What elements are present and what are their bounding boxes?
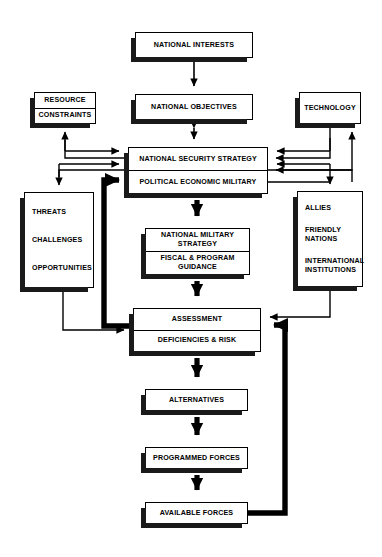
edge-nss-to-allies [268,182,330,184]
edge-nss-to-technology [268,132,352,170]
node-assessment-label-0: ASSESSMENT [134,309,260,330]
list-item: THREATS [32,208,66,217]
node-national-military-strategy-inner: NATIONAL MILITARY STRATEGYFISCAL & PROGR… [146,229,249,274]
node-allies-friendly-nations-international-institutions-inner: ALLIESFRIENDLY NATIONSINTERNATIONAL INST… [298,192,362,286]
list-item: FRIENDLY NATIONS [305,226,362,244]
edge-technology-to-nss [276,124,330,158]
node-assessment-inner: ASSESSMENTDEFICIENCIES & RISK [134,309,260,351]
node-national-military-strategy-label-0: NATIONAL MILITARY STRATEGY [146,229,249,251]
node-assessment-label-1: DEFICIENCIES & RISK [134,330,260,352]
node-national-interests: NATIONAL INTERESTS [135,32,253,58]
node-resource-constraints-label-0: RESOURCE [35,93,95,108]
list-item: ALLIES [305,204,331,213]
node-available-forces: AVAILABLE FORCES [145,502,248,524]
node-national-objectives-inner: NATIONAL OBJECTIVES [136,95,252,119]
node-national-objectives-label-0: NATIONAL OBJECTIVES [136,95,252,119]
node-national-security-strategy-inner: NATIONAL SECURITY STRATEGYPOLITICAL ECON… [129,148,267,193]
edge-assessment-to-nss-feedback [104,180,133,326]
edge-threats-to-nss [94,158,118,170]
edge-threats-to-assessment [63,288,124,330]
node-resource-constraints: RESOURCECONSTRAINTS [34,92,96,124]
node-allies-friendly-nations-international-institutions-items: ALLIESFRIENDLY NATIONSINTERNATIONAL INST… [298,192,362,286]
list-item: CHALLENGES [32,236,82,245]
node-assessment: ASSESSMENTDEFICIENCIES & RISK [133,308,261,352]
node-allies-friendly-nations-international-institutions: ALLIESFRIENDLY NATIONSINTERNATIONAL INST… [297,191,363,287]
node-resource-constraints-inner: RESOURCECONSTRAINTS [35,93,95,123]
node-national-security-strategy-label-0: NATIONAL SECURITY STRATEGY [129,148,267,170]
node-programmed-forces: PROGRAMMED FORCES [145,447,248,469]
edge-allies-to-nss-line [276,170,352,182]
node-national-military-strategy: NATIONAL MILITARY STRATEGYFISCAL & PROGR… [145,228,250,275]
node-programmed-forces-label-0: PROGRAMMED FORCES [146,448,247,468]
list-item: INTERNATIONAL INSTITUTIONS [305,257,364,275]
node-national-security-strategy: NATIONAL SECURITY STRATEGYPOLITICAL ECON… [128,147,268,194]
node-national-interests-inner: NATIONAL INTERESTS [136,33,252,57]
node-technology: TECHNOLOGY [299,92,361,124]
node-resource-constraints-label-1: CONSTRAINTS [35,108,95,124]
node-alternatives: ALTERNATIVES [145,389,248,411]
list-item: OPPORTUNITIES [32,264,92,273]
node-national-interests-label-0: NATIONAL INTERESTS [136,33,252,57]
node-national-military-strategy-label-1: FISCAL & PROGRAM GUIDANCE [146,251,249,274]
node-national-security-strategy-label-1: POLITICAL ECONOMIC MILITARY [129,170,267,193]
node-available-forces-inner: AVAILABLE FORCES [146,503,247,523]
node-threats-challenges-opportunities-items: THREATSCHALLENGESOPPORTUNITIES [25,193,93,287]
node-national-objectives: NATIONAL OBJECTIVES [135,94,253,120]
node-technology-inner: TECHNOLOGY [300,93,360,123]
node-available-forces-label-0: AVAILABLE FORCES [146,503,247,523]
node-technology-label-0: TECHNOLOGY [300,93,360,123]
node-threats-challenges-opportunities-inner: THREATSCHALLENGESOPPORTUNITIES [25,193,93,287]
node-programmed-forces-inner: PROGRAMMED FORCES [146,448,247,468]
node-alternatives-label-0: ALTERNATIVES [146,390,247,410]
edge-allies-to-assessment [270,287,330,317]
edge-nss-to-threats [59,170,128,185]
node-threats-challenges-opportunities: THREATSCHALLENGESOPPORTUNITIES [24,192,94,288]
edge-nss-to-resource-constraints [65,132,128,158]
node-alternatives-inner: ALTERNATIVES [146,390,247,410]
diagram-canvas: NATIONAL INTERESTSNATIONAL OBJECTIVESRES… [0,0,382,557]
